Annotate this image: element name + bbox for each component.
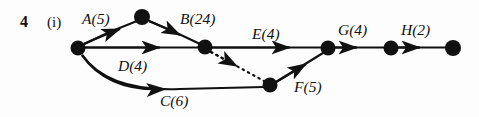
end-node	[445, 40, 461, 56]
edge-g-label: G(4)	[338, 22, 367, 38]
figure-canvas: 4 (i)	[0, 0, 479, 117]
penultimate-node	[384, 41, 399, 56]
edge-a-label: A(5)	[82, 11, 110, 27]
edge-dummy-arrowhead	[211, 52, 237, 66]
edge-dummy-line	[211, 52, 264, 81]
edge-c-label: C(6)	[160, 93, 188, 109]
start-node	[71, 41, 86, 56]
middle-node	[198, 40, 213, 55]
edge-h-label: H(2)	[401, 22, 430, 38]
edge-c-line	[82, 55, 264, 89]
merge-node	[321, 41, 336, 56]
edge-e-label: E(4)	[252, 26, 280, 42]
edge-a-arrowhead	[84, 29, 120, 44]
edge-f-label: F(5)	[294, 79, 322, 95]
edge-d-label: D(4)	[118, 58, 147, 74]
lower-node	[263, 78, 278, 93]
network-diagram	[0, 0, 479, 117]
top-node	[134, 9, 150, 25]
edge-b-label: B(24)	[180, 11, 215, 27]
edge-b-arrowhead	[149, 21, 180, 35]
